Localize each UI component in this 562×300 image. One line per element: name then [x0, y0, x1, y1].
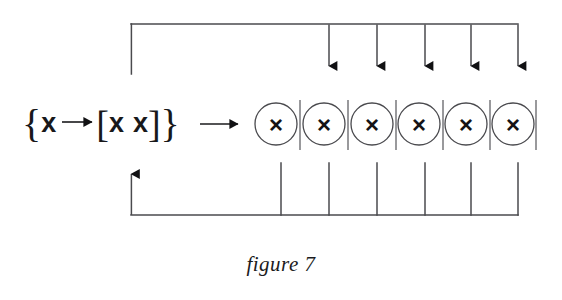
node-cell[interactable]: ×: [445, 103, 487, 145]
node-x-glyph: ×: [317, 111, 331, 138]
figure-caption: figure 7: [0, 252, 562, 277]
top-distribution-bus: [131, 24, 518, 74]
node-x-glyph: ×: [269, 111, 283, 138]
rule-lhs-symbol: x: [41, 110, 56, 137]
node-x-glyph: ×: [365, 111, 379, 138]
node-row: × × × × × ×: [255, 103, 534, 145]
rewrite-rule: {x[xx]}: [22, 96, 202, 152]
node-x-glyph: ×: [459, 111, 473, 138]
rule-open-brace: {: [22, 104, 41, 144]
rule-open-bracket: [: [96, 105, 109, 143]
node-cell[interactable]: ×: [255, 103, 297, 145]
node-cell[interactable]: ×: [398, 103, 440, 145]
node-x-glyph: ×: [412, 111, 426, 138]
rule-rhs-symbol-2: x: [133, 110, 148, 137]
node-cell[interactable]: ×: [303, 103, 345, 145]
production-arrow-slot: [56, 111, 96, 131]
node-cell[interactable]: ×: [492, 103, 534, 145]
rule-close-brace: }: [161, 104, 180, 144]
node-cell[interactable]: ×: [351, 103, 393, 145]
node-x-glyph: ×: [506, 111, 520, 138]
rule-rhs-symbol-1: x: [109, 110, 124, 137]
figure-canvas: × × × × × ×: [0, 0, 562, 300]
rule-close-bracket: ]: [148, 105, 161, 143]
bottom-feedback-bus: [131, 163, 518, 215]
